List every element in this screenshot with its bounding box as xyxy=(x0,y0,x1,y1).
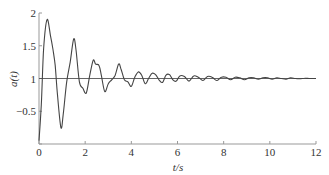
y-axis-label: a(t) xyxy=(7,71,20,87)
x-tick-label: 2 xyxy=(82,146,88,158)
x-axis-label: t/s xyxy=(173,161,183,173)
x-tick-label: 10 xyxy=(264,146,276,158)
series-line xyxy=(39,19,316,140)
y-tick-label: 2 xyxy=(31,7,37,19)
y-tick-label: −0.5 xyxy=(16,105,36,117)
x-tick-label: 6 xyxy=(175,146,181,158)
x-tick-label: 8 xyxy=(221,146,227,158)
x-tick-label: 0 xyxy=(36,146,42,158)
y-tick-label: 1 xyxy=(31,73,37,85)
line-chart: 024681012−0.511.52 t/s a(t) xyxy=(0,0,329,175)
x-tick-label: 4 xyxy=(129,146,135,158)
x-tick-label: 12 xyxy=(311,146,322,158)
ticks: 024681012−0.511.52 xyxy=(16,7,321,158)
y-tick-label: 1.5 xyxy=(22,40,36,52)
series xyxy=(39,19,316,140)
